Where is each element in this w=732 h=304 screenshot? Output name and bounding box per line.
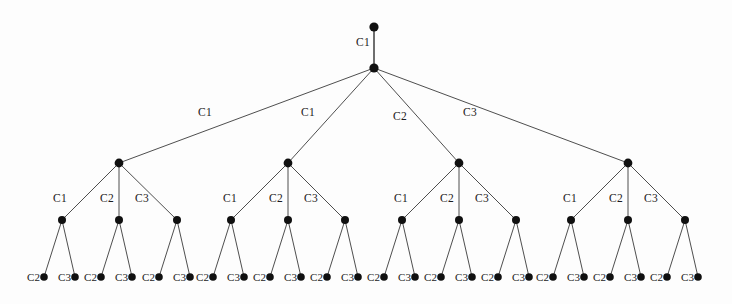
- leaf-edge-20: [610, 220, 628, 277]
- leaf-label-13: C3: [398, 272, 411, 283]
- leaf-edge-8: [270, 220, 288, 277]
- level3-edge-label-9: C1: [563, 193, 577, 205]
- leaf-edge-15: [459, 220, 472, 277]
- level3-node-10: [624, 216, 632, 224]
- leaf-edge-12: [384, 220, 402, 277]
- leaf-edge-1: [62, 220, 75, 277]
- leaf-label-6: C2: [196, 272, 209, 283]
- leaf-node-23: [694, 273, 702, 281]
- leaf-label-5: C3: [173, 272, 186, 283]
- leaf-edge-22: [667, 220, 685, 277]
- leaf-edge-14: [441, 220, 459, 277]
- leaf-label-17: C3: [512, 272, 525, 283]
- tree-diagram-canvas: C1C1C1C2C3C1C2C3C1C2C3C1C2C3C1C2C3C2C3C2…: [0, 0, 732, 304]
- level3-edge-label-0: C1: [53, 193, 67, 205]
- leaf-label-14: C2: [424, 272, 437, 283]
- leaf-node-19: [580, 273, 588, 281]
- leaf-label-2: C2: [84, 272, 97, 283]
- level3-node-2: [173, 216, 181, 224]
- leaf-edge-13: [402, 220, 415, 277]
- leaf-node-4: [155, 273, 163, 281]
- leaf-label-22: C2: [650, 272, 663, 283]
- level3-node-6: [398, 216, 406, 224]
- level3-edge-label-5: C3: [304, 193, 318, 205]
- leaf-label-3: C3: [115, 272, 128, 283]
- level3-edge-label-11: C3: [644, 193, 658, 205]
- leaf-edge-5: [177, 220, 190, 277]
- level3-edge-label-1: C2: [100, 193, 114, 205]
- level3-node-0: [58, 216, 66, 224]
- leaf-label-1: C3: [58, 272, 71, 283]
- leaf-node-8: [266, 273, 274, 281]
- level2-node-1: [284, 159, 293, 168]
- level2-edge-0: [119, 68, 374, 163]
- leaf-node-12: [380, 273, 388, 281]
- leaf-node-10: [323, 273, 331, 281]
- leaf-node-22: [663, 273, 671, 281]
- level3-node-3: [227, 216, 235, 224]
- leaf-label-4: C2: [142, 272, 155, 283]
- leaf-edge-6: [213, 220, 231, 277]
- nodes-group: [40, 22, 702, 280]
- leaf-edge-2: [101, 220, 119, 277]
- leaf-node-9: [297, 273, 305, 281]
- leaf-edge-7: [231, 220, 244, 277]
- leaf-node-2: [97, 273, 105, 281]
- level2-edge-2: [374, 68, 459, 163]
- leaf-label-21: C3: [624, 272, 637, 283]
- level2-node-0: [115, 159, 124, 168]
- leaf-node-17: [525, 273, 533, 281]
- level3-node-11: [681, 216, 689, 224]
- leaf-node-13: [411, 273, 419, 281]
- level3-node-4: [284, 216, 292, 224]
- level3-edge-label-2: C3: [135, 193, 149, 205]
- hub-node: [369, 63, 378, 72]
- leaf-node-6: [209, 273, 217, 281]
- level2-edge-label-1: C1: [301, 107, 315, 119]
- level3-edge-label-6: C1: [394, 193, 408, 205]
- leaf-label-12: C2: [367, 272, 380, 283]
- leaf-label-23: C3: [681, 272, 694, 283]
- leaf-edge-11: [345, 220, 358, 277]
- level2-node-2: [455, 159, 464, 168]
- leaf-edge-16: [498, 220, 516, 277]
- leaf-edge-17: [516, 220, 529, 277]
- level3-edge-label-10: C2: [609, 193, 623, 205]
- level3-edge-label-3: C1: [223, 193, 237, 205]
- level2-edge-3: [374, 68, 628, 163]
- level3-node-5: [341, 216, 349, 224]
- leaf-label-9: C3: [284, 272, 297, 283]
- leaf-edge-9: [288, 220, 301, 277]
- level2-edge-label-0: C1: [198, 107, 212, 119]
- leaf-label-16: C2: [481, 272, 494, 283]
- root-edge-label: C1: [356, 37, 370, 49]
- level3-node-8: [512, 216, 520, 224]
- leaf-edge-0: [44, 220, 62, 277]
- level3-edge-label-7: C2: [440, 193, 454, 205]
- leaf-label-19: C3: [567, 272, 580, 283]
- leaf-label-10: C2: [310, 272, 323, 283]
- leaf-node-11: [354, 273, 362, 281]
- leaf-edge-10: [327, 220, 345, 277]
- leaf-edge-18: [553, 220, 571, 277]
- leaf-node-3: [128, 273, 136, 281]
- leaf-label-20: C2: [593, 272, 606, 283]
- leaf-node-16: [494, 273, 502, 281]
- leaf-label-18: C2: [536, 272, 549, 283]
- leaf-edge-4: [159, 220, 177, 277]
- leaf-edge-23: [685, 220, 698, 277]
- level3-node-7: [455, 216, 463, 224]
- leaf-label-11: C3: [341, 272, 354, 283]
- level3-node-9: [567, 216, 575, 224]
- leaf-label-8: C2: [253, 272, 266, 283]
- leaf-edge-19: [571, 220, 584, 277]
- leaf-label-15: C3: [455, 272, 468, 283]
- leaf-node-21: [637, 273, 645, 281]
- leaf-label-0: C2: [27, 272, 40, 283]
- level2-node-3: [624, 159, 633, 168]
- root-node: [369, 22, 378, 31]
- leaf-label-7: C3: [227, 272, 240, 283]
- level2-edge-label-2: C2: [393, 111, 407, 123]
- edges-group: [44, 27, 698, 277]
- leaf-node-18: [549, 273, 557, 281]
